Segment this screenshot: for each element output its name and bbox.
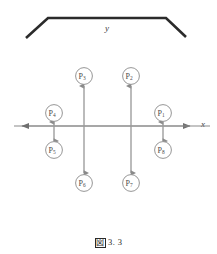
point-label-sub: 7 (130, 182, 133, 188)
point-marker-p3: P3 (76, 68, 93, 85)
figure-diagram: x y P1 P2 (0, 0, 217, 254)
point-label-sub: 6 (83, 182, 86, 188)
point-label-sub: 3 (83, 75, 86, 81)
y-axis-label: y (104, 23, 109, 33)
point-marker-p1: P1 (155, 105, 172, 122)
point-marker-p5: P5 (46, 142, 63, 159)
point-marker-p6: P6 (76, 175, 93, 192)
point-label-sub: 5 (53, 149, 56, 155)
point-label-sub: 8 (162, 149, 165, 155)
point-marker-p7: P7 (123, 175, 140, 192)
displacement-arrows (54, 86, 163, 173)
point-label-sub: 1 (162, 112, 165, 118)
point-markers: P1 P2 P3 P4 (46, 68, 172, 192)
figure-caption-number: 3. 3 (108, 237, 122, 247)
point-marker-p2: P2 (123, 68, 140, 85)
figure-caption: 図3. 3 (0, 237, 217, 248)
figure-caption-mark: 図 (95, 238, 106, 248)
point-marker-p4: P4 (46, 105, 63, 122)
point-label-sub: 4 (53, 112, 56, 118)
point-marker-p8: P8 (155, 142, 172, 159)
figure-container: x y P1 P2 (0, 0, 217, 254)
point-label-sub: 2 (130, 75, 133, 81)
x-axis-label: x (200, 119, 205, 129)
